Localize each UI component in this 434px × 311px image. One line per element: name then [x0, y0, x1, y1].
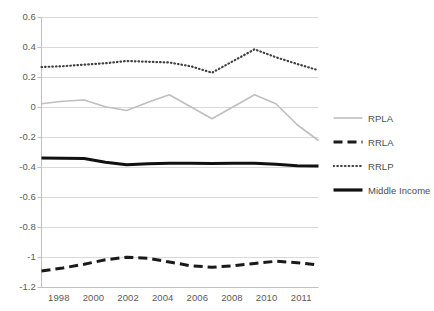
- legend-item[interactable]: RRLP: [333, 154, 434, 178]
- y-tick-label: -0.8: [2, 221, 36, 232]
- y-tick-label: 0.2: [2, 71, 36, 82]
- x-tick-label: 2011: [281, 292, 321, 303]
- legend-label: Middle Income: [368, 185, 430, 196]
- series-line-middle-income: [42, 158, 319, 166]
- y-tick-label: 0.6: [2, 11, 36, 22]
- legend-item[interactable]: Middle Income: [333, 178, 434, 202]
- series-line-rrlp: [42, 49, 319, 72]
- solid-thin-line-icon: [333, 112, 363, 124]
- series-line-rpla: [42, 95, 319, 141]
- data-series-layer: [42, 49, 319, 271]
- dashed-thick-line-icon: [333, 136, 363, 148]
- y-tick-label: -0.2: [2, 131, 36, 142]
- tick-marks: [38, 18, 42, 288]
- chart-legend: RPLARRLARRLPMiddle Income: [333, 106, 434, 202]
- y-tick-label: -0.4: [2, 161, 36, 172]
- legend-label: RPLA: [368, 113, 393, 124]
- y-tick-label: -1: [2, 251, 36, 262]
- legend-label: RRLP: [368, 161, 394, 172]
- y-tick-label: 0: [2, 101, 36, 112]
- legend-item[interactable]: RRLA: [333, 130, 434, 154]
- y-tick-label: -1.2: [2, 281, 36, 292]
- legend-label: RRLA: [368, 137, 394, 148]
- solid-thick-line-icon: [333, 184, 363, 196]
- y-tick-label: 0.4: [2, 41, 36, 52]
- series-line-rrla: [42, 257, 319, 271]
- line-chart: 0.60.40.20-0.2-0.4-0.6-0.8-1-1.2 1998200…: [0, 0, 434, 311]
- legend-item[interactable]: RPLA: [333, 106, 434, 130]
- dotted-line-icon: [333, 160, 363, 172]
- y-tick-label: -0.6: [2, 191, 36, 202]
